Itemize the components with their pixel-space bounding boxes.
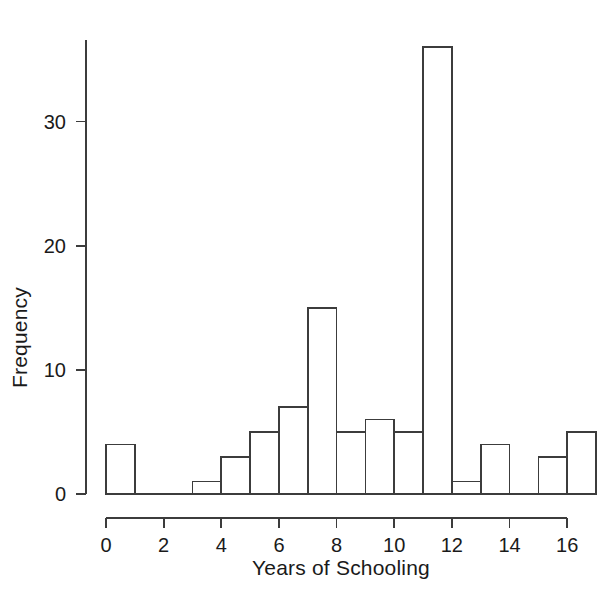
histogram-bar	[279, 407, 308, 494]
x-tick-label: 16	[547, 534, 587, 557]
histogram-bar	[192, 482, 221, 494]
y-tick-label: 20	[26, 234, 66, 257]
x-tick-label: 10	[374, 534, 414, 557]
histogram-bar	[452, 482, 481, 494]
x-tick-label: 6	[259, 534, 299, 557]
plot-area	[0, 0, 616, 605]
histogram-bar	[250, 432, 279, 494]
y-tick-label: 30	[26, 110, 66, 133]
y-tick-label: 10	[26, 358, 66, 381]
x-tick-label: 4	[201, 534, 241, 557]
histogram-figure: Frequency Years of Schooling 0102030 024…	[0, 0, 616, 605]
histogram-bar	[538, 457, 567, 494]
bars-group	[106, 47, 596, 494]
y-tick-label: 0	[26, 483, 66, 506]
histogram-bar	[481, 444, 510, 494]
histogram-bar	[221, 457, 250, 494]
x-tick-label: 2	[144, 534, 184, 557]
histogram-bar	[308, 308, 337, 494]
histogram-bar	[106, 444, 135, 494]
x-tick-label: 12	[432, 534, 472, 557]
histogram-bar	[423, 47, 452, 494]
histogram-bar	[567, 432, 596, 494]
histogram-bar	[394, 432, 423, 494]
histogram-bar	[337, 432, 366, 494]
x-tick-label: 14	[490, 534, 530, 557]
histogram-bar	[365, 420, 394, 495]
x-tick-label: 8	[317, 534, 357, 557]
x-tick-label: 0	[86, 534, 126, 557]
